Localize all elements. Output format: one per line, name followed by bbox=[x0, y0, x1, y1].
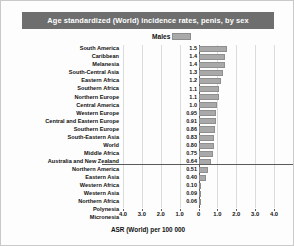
bar-container: 0.83 bbox=[199, 135, 215, 141]
bar-value-label: 0.75 bbox=[186, 151, 197, 157]
bar-container: 0.86 bbox=[199, 126, 215, 132]
bar-container: 0.40 bbox=[199, 175, 207, 181]
bar-row-label: Western Europe bbox=[22, 111, 123, 117]
bar-row-label: Micronesia bbox=[22, 215, 123, 221]
bar-container: 0.75 bbox=[199, 151, 213, 157]
bar-row: Northern America0.51 bbox=[22, 166, 274, 174]
bar-males bbox=[199, 62, 225, 68]
bar-value-label: 0.40 bbox=[186, 175, 197, 181]
bar-container: 0.95 bbox=[199, 110, 217, 116]
bar-males bbox=[199, 143, 214, 149]
bar-males bbox=[199, 54, 225, 60]
bar-row-label: South-Eastern Asia bbox=[22, 135, 123, 141]
bar-row-label: Northern Africa bbox=[22, 199, 123, 205]
plot-area: South America1.5Caribbean1.4Melanesia1.4… bbox=[22, 45, 274, 208]
bar-row-track: 0.86 bbox=[123, 125, 274, 133]
bar-row-track: 0.75 bbox=[123, 150, 274, 158]
bar-row: Eastern Asia0.40 bbox=[22, 174, 274, 182]
bar-container: 0.91 bbox=[199, 118, 216, 124]
bar-container: 0.51 bbox=[199, 167, 209, 173]
bar-row-track: 1.1 bbox=[123, 93, 274, 101]
bar-males bbox=[199, 167, 209, 173]
bar-row-label: World bbox=[22, 143, 123, 149]
bar-row: Melanesia1.4 bbox=[22, 61, 274, 69]
bar-males bbox=[199, 46, 227, 52]
bar-row: World0.80 bbox=[22, 142, 274, 150]
x-axis-tick-label: 4.0 bbox=[119, 212, 127, 218]
x-axis: 4.03.02.01.001.02.03.04.0 bbox=[123, 209, 274, 221]
bar-males bbox=[199, 94, 220, 100]
bar-row-track: 0.40 bbox=[123, 174, 274, 182]
bar-row-track: 1.2 bbox=[123, 77, 274, 85]
bar-row: Southern Africa1.1 bbox=[22, 85, 274, 93]
bar-value-label: 1.0 bbox=[189, 103, 197, 109]
bar-container: 0.80 bbox=[199, 143, 214, 149]
bar-row-label: South-Central Asia bbox=[22, 70, 123, 76]
bar-value-label: 1.2 bbox=[189, 78, 197, 84]
bar-row-track: 1.1 bbox=[123, 85, 274, 93]
bar-row-track: 0.09 bbox=[123, 190, 274, 198]
bar-row-track: 0.95 bbox=[123, 109, 274, 117]
bar-row: Middle Africa0.75 bbox=[22, 150, 274, 158]
gridline bbox=[274, 45, 275, 208]
bar-row-track: 1.5 bbox=[123, 45, 274, 53]
bar-males bbox=[199, 86, 220, 92]
chart-title-bar: Age standardized (World) incidence rates… bbox=[22, 12, 274, 29]
bar-row-track: 0.83 bbox=[123, 134, 274, 142]
bar-row-track: 1.3 bbox=[123, 69, 274, 77]
bar-row-track: 0.80 bbox=[123, 142, 274, 150]
bar-container: 1.5 bbox=[199, 46, 227, 52]
bar-value-label: 1.1 bbox=[189, 95, 197, 101]
bar-males bbox=[199, 126, 215, 132]
x-axis-tick-label: 1.0 bbox=[176, 212, 184, 218]
bar-males bbox=[199, 118, 216, 124]
bar-value-label: 0.51 bbox=[186, 167, 197, 173]
bar-row-label: Northern America bbox=[22, 167, 123, 173]
chart-legend: Males bbox=[152, 33, 191, 40]
bar-row-label: Northern Europe bbox=[22, 95, 123, 101]
bar-row: Central America1.0 bbox=[22, 101, 274, 109]
bar-row-track: 1.4 bbox=[123, 53, 274, 61]
bar-value-label: 0.95 bbox=[186, 111, 197, 117]
bar-value-label: 0.91 bbox=[186, 119, 197, 125]
bar-row-track: 0.06 bbox=[123, 198, 274, 206]
bar-value-label: 0.83 bbox=[186, 135, 197, 141]
bar-males bbox=[199, 110, 217, 116]
x-axis-title: ASR (World) per 100 000 bbox=[22, 226, 274, 233]
bar-row: Western Europe0.95 bbox=[22, 109, 274, 117]
bar-row-label: Southern Europe bbox=[22, 127, 123, 133]
bar-value-label: 1.3 bbox=[189, 70, 197, 76]
bar-value-label: 0.80 bbox=[186, 143, 197, 149]
bar-container: 0.09 bbox=[199, 191, 201, 197]
x-axis-line bbox=[102, 164, 293, 165]
x-axis-tick-label: 0 bbox=[197, 212, 200, 218]
bar-container: 1.0 bbox=[199, 102, 218, 108]
x-axis-tick-label: 2.0 bbox=[232, 212, 240, 218]
x-axis-tick-label: 2.0 bbox=[157, 212, 165, 218]
bar-container: 1.4 bbox=[199, 62, 225, 68]
bar-row: South America1.5 bbox=[22, 45, 274, 53]
bar-row: South-Central Asia1.3 bbox=[22, 69, 274, 77]
bar-row-track: 1.0 bbox=[123, 101, 274, 109]
bar-males bbox=[199, 135, 215, 141]
bar-row-label: Eastern Africa bbox=[22, 78, 123, 84]
chart-figure: Age standardized (World) incidence rates… bbox=[0, 0, 294, 246]
x-axis-tick-label: 3.0 bbox=[138, 212, 146, 218]
bar-row-label: South America bbox=[22, 46, 123, 52]
bar-row-track: 0.91 bbox=[123, 117, 274, 125]
bar-row: Caribbean1.4 bbox=[22, 53, 274, 61]
bar-row-label: Middle Africa bbox=[22, 151, 123, 157]
bar-row-track: 1.4 bbox=[123, 61, 274, 69]
bar-value-label: 0.10 bbox=[186, 183, 197, 189]
bar-row-track: 0.51 bbox=[123, 166, 274, 174]
chart-title: Age standardized (World) incidence rates… bbox=[47, 16, 248, 25]
bar-row-label: Central and Eastern Europe bbox=[22, 119, 123, 125]
bar-value-label: 1.4 bbox=[189, 54, 197, 60]
bar-container: 0.06 bbox=[199, 199, 201, 205]
legend-swatch-males bbox=[172, 33, 191, 40]
bar-row-label: Melanesia bbox=[22, 62, 123, 68]
bar-value-label: 1.4 bbox=[189, 62, 197, 68]
legend-label-males: Males bbox=[152, 33, 170, 40]
bar-row-track: 0.10 bbox=[123, 182, 274, 190]
bar-row-label: Western Africa bbox=[22, 183, 123, 189]
